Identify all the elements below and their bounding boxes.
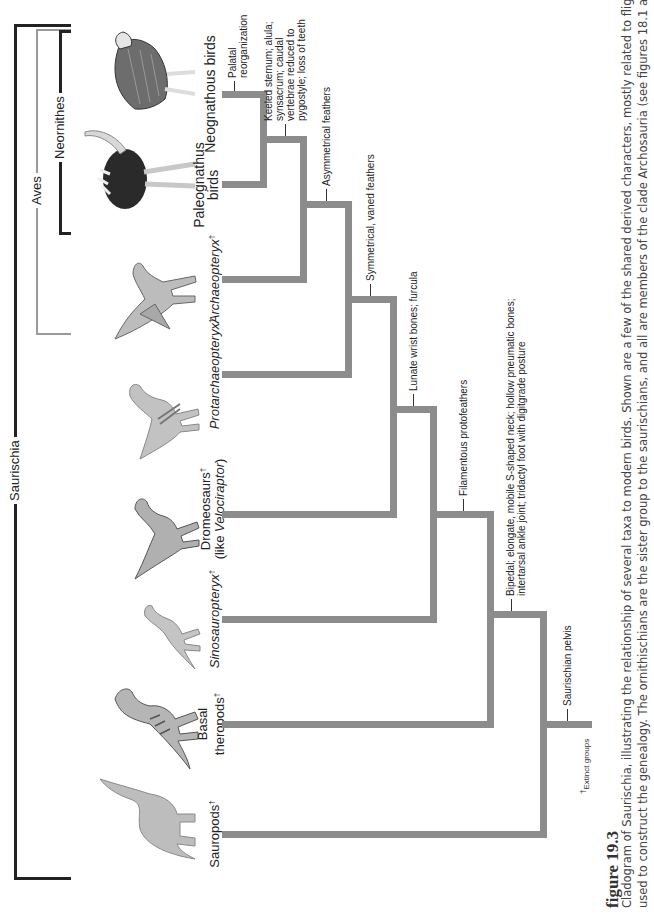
cladogram-figure: Saurischia Aves Neornithes — [0, 0, 654, 914]
branch-protarchaeopteryx — [222, 371, 352, 378]
clade-label-aves: Aves — [30, 173, 44, 208]
stem-5 — [430, 511, 494, 518]
taxon-label-neognathous-birds: Neognathous birds — [203, 34, 217, 154]
saurischia-bracket-left-end — [14, 877, 71, 880]
tick-lunate — [413, 394, 414, 406]
node-3 — [345, 201, 352, 378]
figure-caption-line-2: used to construct the genealogy. The orn… — [635, 0, 652, 908]
char-symmetrical: Symmetrical, vaned feathers — [365, 154, 376, 281]
tick-bipedal — [511, 599, 512, 611]
branch-archaeopteryx — [222, 276, 307, 283]
aves-bracket-left-end — [36, 333, 71, 335]
figure-caption-line-1: Cladogram of Saurischia, illustrating th… — [619, 0, 636, 908]
char-saurischian-pelvis: Saurischian pelvis — [562, 625, 573, 706]
footnote-extinct-groups: †Extinct groups — [578, 739, 591, 794]
node-6 — [487, 511, 494, 728]
char-keeled: Keeled sternum; alula; synsacrum; caudal… — [263, 19, 307, 121]
taxon-label-sinosauropteryx: Sinosauropteryx† — [205, 564, 222, 674]
clade-label-saurischia: Saurischia — [8, 437, 22, 504]
root-stem — [540, 721, 592, 728]
archaeopteryx-illustration — [95, 249, 205, 344]
sauropod-illustration — [95, 774, 205, 874]
tick-asymmetrical — [326, 189, 327, 201]
neornithes-bracket-right-end — [59, 30, 71, 33]
saurischia-bracket-right-end — [14, 24, 71, 27]
ostrich-illustration — [80, 114, 205, 224]
protarchaeopteryx-illustration — [100, 374, 205, 464]
node-aves — [300, 136, 307, 283]
tick-symmetrical — [370, 284, 371, 296]
tick-palatal — [234, 81, 235, 91]
char-bipedal: Bipedal; elongate, mobile S-shaped neck;… — [505, 299, 527, 596]
taxon-label-archaeopteryx: Archaeopteryx† — [205, 224, 222, 334]
taxon-label-dromeosaurs: Dromeosaurs† (like Velociraptor) — [196, 449, 227, 569]
basal-theropod-illustration — [100, 684, 205, 774]
char-asymmetrical: Asymmetrical feathers — [321, 87, 332, 186]
branch-basal-theropods — [222, 721, 494, 728]
tick-saurischian-pelvis — [567, 709, 568, 721]
branch-dromeosaurs — [222, 511, 397, 518]
neognathous-bird-illustration — [95, 24, 205, 124]
branch-sauropods — [222, 831, 547, 838]
char-lunate: Lunate wrist bones; furcula — [408, 271, 419, 391]
sinosauropteryx-illustration — [110, 594, 205, 674]
clade-label-neornithes: Neornithes — [53, 93, 67, 162]
tick-filamentous — [463, 499, 464, 511]
tick-keeled — [285, 124, 286, 136]
neornithes-bracket-left-end — [59, 232, 71, 235]
stem-6 — [487, 611, 547, 618]
taxon-label-sauropods: Sauropods† — [205, 799, 222, 869]
dromeosaur-illustration — [105, 494, 205, 584]
branch-sinosauropteryx — [222, 616, 437, 623]
char-filamentous: Filamentous protofeathers — [458, 380, 469, 496]
char-palatal: Palatal reorganization — [227, 15, 249, 78]
